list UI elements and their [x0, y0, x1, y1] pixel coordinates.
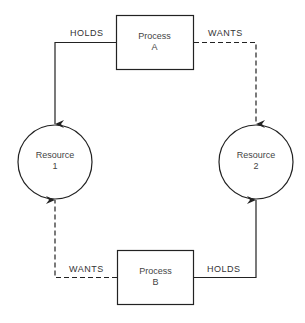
- process-b-line2: B: [117, 277, 194, 288]
- resource-1-label: Resource 1: [18, 150, 92, 172]
- resource-2-line1: Resource: [219, 150, 293, 161]
- resource-1-line1: Resource: [18, 150, 92, 161]
- edge-label-b-wants: WANTS: [69, 264, 104, 274]
- edge-a-holds-r1: [55, 43, 116, 125]
- edge-label-a-wants: WANTS: [208, 28, 243, 38]
- edge-label-b-holds: HOLDS: [207, 264, 241, 274]
- resource-1-line2: 1: [18, 161, 92, 172]
- process-a-line2: A: [116, 42, 193, 53]
- resource-2-label: Resource 2: [219, 150, 293, 172]
- process-b-line1: Process: [117, 266, 194, 277]
- edge-a-wants-r2: [194, 43, 256, 125]
- process-b-label: Process B: [117, 266, 194, 288]
- resource-2-line2: 2: [219, 161, 293, 172]
- process-a-label: Process A: [116, 31, 193, 53]
- edge-label-a-holds: HOLDS: [70, 28, 104, 38]
- process-a-line1: Process: [116, 31, 193, 42]
